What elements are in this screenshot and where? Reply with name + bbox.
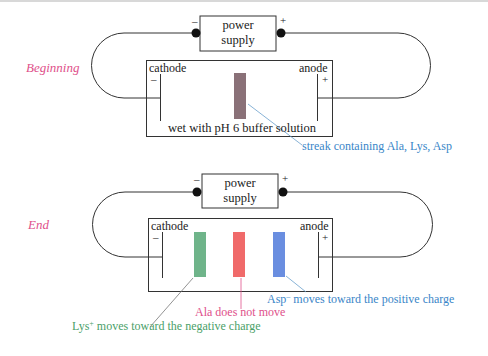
- lys-band: [194, 232, 206, 277]
- power-supply-label-end: power supply: [202, 176, 278, 206]
- streak-caption: streak containing Ala, Lys, Asp: [302, 140, 452, 152]
- positive-terminal-end: [279, 188, 288, 197]
- power-supply-label-beginning: power supply: [200, 18, 276, 48]
- lys-text: moves toward the negative charge: [94, 319, 261, 333]
- asp-caption: Asp– moves toward the positive charge: [267, 293, 454, 305]
- ala-caption: Ala does not move: [195, 306, 285, 318]
- stage-label-end: End: [28, 218, 49, 231]
- asp-band: [273, 232, 285, 277]
- anode-sign-beginning: +: [322, 74, 328, 85]
- power-pos-sign-beginning: +: [280, 15, 286, 26]
- cathode-sign-beginning: –: [151, 74, 157, 85]
- power-neg-sign-end: –: [194, 174, 200, 185]
- power-supply-line2: supply: [202, 191, 278, 206]
- lys-name: Lys: [72, 319, 89, 333]
- power-supply-line1: power: [202, 176, 278, 191]
- lys-caption: Lys+ moves toward the negative charge: [72, 320, 261, 332]
- anode-sign-end: +: [322, 232, 328, 243]
- asp-leader-line: [286, 276, 306, 292]
- power-supply-line2: supply: [200, 33, 276, 48]
- cathode-sign-end: –: [153, 232, 159, 243]
- stage-label-beginning: Beginning: [26, 61, 79, 74]
- mixed-streak: [234, 73, 246, 119]
- negative-terminal-end: [193, 188, 202, 197]
- power-neg-sign-beginning: –: [192, 16, 198, 27]
- power-pos-sign-end: +: [282, 173, 288, 184]
- buffer-solution-text: wet with pH 6 buffer solution: [168, 122, 316, 135]
- ala-band: [233, 232, 245, 277]
- asp-text: moves toward the positive charge: [290, 292, 454, 306]
- positive-terminal-beginning: [277, 29, 286, 38]
- asp-name: Asp: [267, 292, 286, 306]
- power-supply-line1: power: [200, 18, 276, 33]
